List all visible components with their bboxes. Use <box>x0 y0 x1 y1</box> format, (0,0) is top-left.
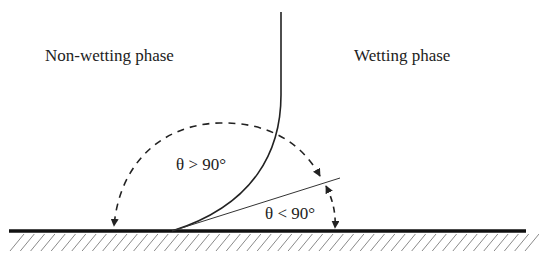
fluid-interface-curve <box>172 12 281 231</box>
acute-angle-label: θ < 90° <box>265 204 315 223</box>
non-wetting-phase-label: Non-wetting phase <box>45 46 174 65</box>
acute-angle-arc <box>326 186 335 228</box>
wetting-phase-label: Wetting phase <box>354 46 450 65</box>
contact-angle-diagram: Non-wetting phase Wetting phase θ > 90° … <box>0 0 539 269</box>
obtuse-angle-label: θ > 90° <box>176 155 226 174</box>
surface-hatching <box>10 234 539 251</box>
